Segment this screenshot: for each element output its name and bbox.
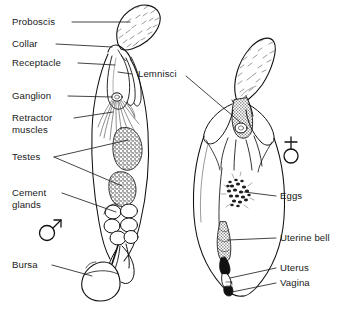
label-bursa: Bursa (12, 259, 38, 270)
label-receptacle: Receptacle (12, 57, 61, 68)
label-ganglion: Ganglion (12, 90, 51, 101)
male-testes (109, 127, 142, 206)
leader-lemnisci-female (186, 76, 240, 122)
leader-uterine-bell (228, 238, 276, 240)
label-collar: Collar (12, 38, 38, 49)
male-symbol (40, 220, 62, 241)
leader-receptacle (78, 63, 115, 65)
leader-vagina (232, 283, 276, 292)
female-uterus (220, 257, 231, 288)
anatomy-figure: Proboscis Collar Receptacle Ganglion Ret… (0, 0, 346, 309)
male-proboscis (117, 5, 160, 50)
female-trunk-right (242, 138, 285, 296)
male-worm (82, 5, 161, 301)
female-proboscis (235, 38, 275, 103)
label-cement: Cement (12, 187, 46, 198)
leader-cement-glands (62, 193, 116, 212)
female-worm (193, 38, 284, 296)
female-symbol (284, 137, 298, 163)
leader-ganglion (68, 96, 112, 97)
label-uterine-bell: Uterine bell (280, 232, 330, 243)
leader-testes-2 (54, 157, 122, 186)
label-muscles: muscles (12, 124, 48, 135)
male-bursa (82, 262, 120, 301)
label-retractor: Retractor (12, 112, 52, 123)
label-glands: glands (12, 199, 41, 210)
leader-bursa (52, 265, 92, 276)
label-vagina: Vagina (280, 277, 310, 288)
male-cement-glands (104, 204, 138, 245)
label-testes: Testes (12, 151, 40, 162)
leader-uterus (230, 268, 276, 278)
leader-collar (56, 44, 112, 47)
female-uterine-bell (217, 222, 231, 262)
label-eggs: Eggs (280, 190, 302, 201)
leader-lemnisci-male (118, 72, 132, 74)
female-ganglion (235, 123, 247, 133)
male-ganglion (112, 93, 122, 101)
female-eggs (221, 172, 254, 208)
label-uterus: Uterus (280, 262, 309, 273)
label-proboscis: Proboscis (12, 16, 55, 27)
label-lemnisci: Lemnisci (138, 68, 177, 79)
